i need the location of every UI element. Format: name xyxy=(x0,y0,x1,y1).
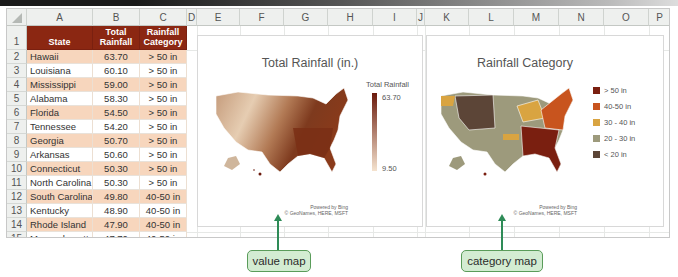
cell-rainfall[interactable]: 60.10 xyxy=(93,64,140,78)
column-header-o[interactable]: O xyxy=(604,9,649,26)
cell-category[interactable]: > 50 in xyxy=(140,134,187,148)
cell-state[interactable]: Connecticut xyxy=(27,162,93,176)
cell-state[interactable]: Alabama xyxy=(27,92,93,106)
column-header-i[interactable]: I xyxy=(373,9,417,26)
spreadsheet-grid[interactable]: A B C D E F G H I J K L M N O P 1 2 3 4 … xyxy=(6,8,670,238)
cell-category[interactable]: > 50 in xyxy=(140,78,187,92)
cell-rainfall[interactable]: 58.30 xyxy=(93,92,140,106)
column-header-g[interactable]: G xyxy=(284,9,328,26)
cell-state[interactable]: North Carolina xyxy=(27,176,93,190)
cell-rainfall[interactable]: 47.70 xyxy=(93,232,140,238)
legend-item-gt-50: > 50 in xyxy=(593,86,627,95)
cell-rainfall[interactable]: 47.90 xyxy=(93,218,140,232)
cell-state[interactable]: Georgia xyxy=(27,134,93,148)
row-header-8[interactable]: 8 xyxy=(7,134,27,148)
cell-rainfall[interactable]: 54.20 xyxy=(93,120,140,134)
column-header-k[interactable]: K xyxy=(425,9,469,26)
row-header-5[interactable]: 5 xyxy=(7,92,27,106)
header-total-rainfall[interactable]: Total Rainfall xyxy=(93,26,140,50)
cell-rainfall[interactable]: 49.80 xyxy=(93,190,140,204)
header-state[interactable]: State xyxy=(27,26,93,50)
cell-category[interactable]: > 50 in xyxy=(140,176,187,190)
row-header-3[interactable]: 3 xyxy=(7,64,27,78)
window-top-edge xyxy=(0,0,678,6)
value-map-attribution: Powered by Bing © GeoNames, HERE, MSFT xyxy=(278,204,348,216)
cell-state[interactable]: Mississippi xyxy=(27,78,93,92)
cell-state[interactable]: Hawaii xyxy=(27,50,93,64)
column-header-m[interactable]: M xyxy=(514,9,559,26)
column-header-c[interactable]: C xyxy=(140,9,187,26)
cell-category[interactable]: > 50 in xyxy=(140,162,187,176)
cell-rainfall[interactable]: 50.30 xyxy=(93,176,140,190)
cell-state[interactable]: Rhode Island xyxy=(27,218,93,232)
category-map-callout: category map xyxy=(461,250,543,272)
legend-item-30-40: 30 - 40 in xyxy=(593,118,635,127)
cell-category[interactable]: > 50 in xyxy=(140,106,187,120)
legend-swatch xyxy=(593,119,600,126)
cell-rainfall[interactable]: 54.50 xyxy=(93,106,140,120)
row-header-6[interactable]: 6 xyxy=(7,106,27,120)
column-header-d[interactable]: D xyxy=(187,9,197,26)
column-header-l[interactable]: L xyxy=(469,9,514,26)
select-all-corner[interactable] xyxy=(7,9,27,26)
header-rainfall-category[interactable]: Rainfall Category xyxy=(140,26,187,50)
row-header-2[interactable]: 2 xyxy=(7,50,27,64)
cell-category[interactable]: > 50 in xyxy=(140,50,187,64)
row-header-15[interactable]: 15 xyxy=(7,232,27,238)
category-map-title: Rainfall Category xyxy=(407,56,643,70)
row-header-10[interactable]: 10 xyxy=(7,162,27,176)
value-map-title: Total Rainfall (in.) xyxy=(198,56,422,70)
row-header-12[interactable]: 12 xyxy=(7,190,27,204)
cell-state[interactable]: Louisiana xyxy=(27,64,93,78)
row-header-11[interactable]: 11 xyxy=(7,176,27,190)
cell-category[interactable]: > 50 in xyxy=(140,148,187,162)
value-map-chart[interactable]: Total Rainfall (in.) Total Rainfall 63.7… xyxy=(197,35,423,227)
column-header-p[interactable]: P xyxy=(649,9,670,26)
cell-category[interactable]: > 50 in xyxy=(140,92,187,106)
cell-state[interactable]: Massachusetts xyxy=(27,232,93,238)
value-map-callout: value map xyxy=(247,250,311,272)
cell-state[interactable]: Tennessee xyxy=(27,120,93,134)
legend-item-20-30: 20 - 30 in xyxy=(593,134,635,143)
column-header-h[interactable]: H xyxy=(328,9,373,26)
cell-category[interactable]: > 50 in xyxy=(140,120,187,134)
row-header-9[interactable]: 9 xyxy=(7,148,27,162)
column-header-e[interactable]: E xyxy=(197,9,240,26)
row-header-13[interactable]: 13 xyxy=(7,204,27,218)
value-legend-gradient xyxy=(372,93,377,171)
row-header-1[interactable]: 1 xyxy=(7,26,27,50)
row-header-14[interactable]: 14 xyxy=(7,218,27,232)
cell-category[interactable]: 40-50 in xyxy=(140,218,187,232)
cell-state[interactable]: Kentucky xyxy=(27,204,93,218)
column-header-f[interactable]: F xyxy=(240,9,284,26)
category-map-arrow xyxy=(501,220,503,250)
cell-category[interactable]: > 50 in xyxy=(140,64,187,78)
category-map-chart[interactable]: Rainfall Category > 50 in 40-50 in 3 xyxy=(426,35,664,227)
row-header-7[interactable]: 7 xyxy=(7,120,27,134)
cell-category[interactable]: 40-50 in xyxy=(140,204,187,218)
column-header-b[interactable]: B xyxy=(93,9,140,26)
us-category-map xyxy=(433,78,593,188)
cell-category[interactable]: 40-50 in xyxy=(140,190,187,204)
column-header-a[interactable]: A xyxy=(27,9,93,26)
cell-rainfall[interactable]: 50.70 xyxy=(93,134,140,148)
legend-swatch xyxy=(593,103,600,110)
row-header-4[interactable]: 4 xyxy=(7,78,27,92)
value-legend-max: 63.70 xyxy=(382,93,401,102)
legend-swatch xyxy=(593,151,600,158)
cell-state[interactable]: Arkansas xyxy=(27,148,93,162)
cell-state[interactable]: South Carolina xyxy=(27,190,93,204)
legend-swatch xyxy=(593,135,600,142)
cell-rainfall[interactable]: 50.30 xyxy=(93,162,140,176)
column-header-n[interactable]: N xyxy=(559,9,604,26)
legend-swatch xyxy=(593,87,600,94)
cell-rainfall[interactable]: 50.60 xyxy=(93,148,140,162)
column-header-j[interactable]: J xyxy=(417,9,425,26)
cell-rainfall[interactable]: 59.00 xyxy=(93,78,140,92)
cell-rainfall[interactable]: 48.90 xyxy=(93,204,140,218)
cell-category[interactable]: 40-50 in xyxy=(140,232,187,238)
cell-rainfall[interactable]: 63.70 xyxy=(93,50,140,64)
legend-item-40-50: 40-50 in xyxy=(593,102,631,111)
select-all-triangle-icon xyxy=(12,13,22,23)
cell-state[interactable]: Florida xyxy=(27,106,93,120)
